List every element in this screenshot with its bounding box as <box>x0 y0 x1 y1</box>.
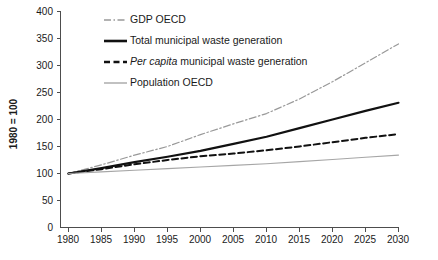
x-tick-label-2010: 2010 <box>255 234 278 245</box>
x-tick-label-2020: 2020 <box>321 234 344 245</box>
x-tick-label-1980: 1980 <box>57 234 80 245</box>
y-tick-label-200: 200 <box>36 114 53 125</box>
y-tick-label-400: 400 <box>36 6 53 17</box>
x-axis-ticks <box>69 228 399 232</box>
x-tick-label-2000: 2000 <box>189 234 212 245</box>
y-tick-label-300: 300 <box>36 60 53 71</box>
x-tick-label-2030: 2030 <box>387 234 410 245</box>
y-axis-tick-labels: 400 350 300 250 200 150 100 50 0 <box>36 6 53 233</box>
x-tick-label-1995: 1995 <box>156 234 179 245</box>
y-tick-label-350: 350 <box>36 33 53 44</box>
legend-label-per-capita-rest: municipal waste generation <box>177 55 307 67</box>
series-line-per-capita-municipal-waste-generation <box>69 134 399 173</box>
legend-label-population-oecd: Population OECD <box>130 76 213 88</box>
legend-label-gdp-oecd: GDP OECD <box>130 13 186 25</box>
chart-legend: GDP OECD Total municipal waste generatio… <box>104 13 308 88</box>
y-tick-label-50: 50 <box>42 195 54 206</box>
line-chart: 1980 = 100 400 350 300 250 200 150 100 5… <box>0 0 438 260</box>
x-tick-label-2025: 2025 <box>354 234 377 245</box>
x-tick-label-2005: 2005 <box>222 234 245 245</box>
x-tick-label-2015: 2015 <box>288 234 311 245</box>
legend-label-per-capita-waste: Per capita municipal waste generation <box>130 55 308 67</box>
chart-figure: 1980 = 100 400 350 300 250 200 150 100 5… <box>0 0 438 260</box>
x-axis-tick-labels: 1980 1985 1990 1995 2000 2005 2010 2015 … <box>57 234 410 245</box>
y-tick-label-150: 150 <box>36 141 53 152</box>
y-tick-label-0: 0 <box>47 222 53 233</box>
y-axis-title: 1980 = 100 <box>8 98 19 149</box>
x-tick-label-1990: 1990 <box>123 234 146 245</box>
y-tick-label-100: 100 <box>36 168 53 179</box>
legend-label-total-municipal-waste: Total municipal waste generation <box>130 34 282 46</box>
x-tick-label-1985: 1985 <box>90 234 113 245</box>
legend-label-per-capita-italic: Per capita <box>130 55 177 67</box>
series-line-total-municipal-waste-generation <box>69 103 399 174</box>
y-axis-ticks <box>57 12 61 201</box>
y-tick-label-250: 250 <box>36 87 53 98</box>
